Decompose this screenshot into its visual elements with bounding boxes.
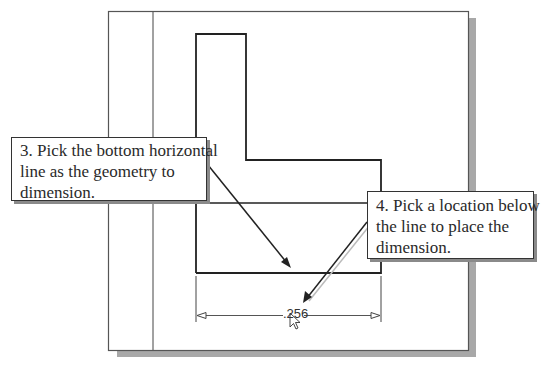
callout-step-3-line-2: line as the geometry to (20, 161, 198, 182)
dimension-value[interactable]: .256 (283, 306, 308, 321)
callout-step-3: 3. Pick the bottom horizontal line as th… (11, 137, 207, 201)
callout-step-4-line-1: 4. Pick a location below (376, 195, 525, 216)
callout-step-4-line-3: dimension. (376, 237, 525, 258)
callout-step-3-line-3: dimension. (20, 182, 198, 203)
callout-step-4: 4. Pick a location below the line to pla… (367, 191, 534, 259)
callout-step-4-line-2: the line to place the (376, 216, 525, 237)
callout-step-3-line-1: 3. Pick the bottom horizontal (20, 140, 198, 161)
